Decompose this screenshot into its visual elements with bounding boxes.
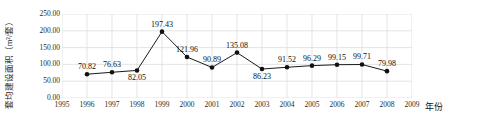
y-tick-label: 200.00 — [16, 27, 60, 35]
x-tick-label: 1998 — [130, 100, 145, 109]
data-point-label: 82.05 — [128, 73, 146, 82]
x-tick-label: 2000 — [180, 100, 195, 109]
y-axis-title-text: 套均建设面积（m²/套） — [2, 17, 14, 110]
data-point-labels: 70.8276.6382.05197.43121.9690.89135.0886… — [62, 14, 412, 98]
x-tick-label: 2009 — [405, 100, 420, 109]
y-tick-label: 50.00 — [16, 77, 60, 85]
y-tick-label: 150.00 — [16, 44, 60, 52]
x-tick-label: 2004 — [280, 100, 295, 109]
x-tick-label: 2002 — [230, 100, 245, 109]
x-tick-label: 1997 — [105, 100, 120, 109]
x-tick-label: 1999 — [155, 100, 170, 109]
data-point-label: 99.71 — [353, 52, 371, 61]
data-point-label: 121.96 — [176, 45, 198, 54]
y-tick-label: 100.00 — [16, 60, 60, 68]
data-point-label: 70.82 — [78, 62, 96, 71]
x-tick-label: 2005 — [305, 100, 320, 109]
data-point-label: 96.29 — [303, 54, 321, 63]
x-axis-title: 年份 — [425, 100, 443, 113]
data-point-label: 76.63 — [103, 60, 121, 69]
data-point-label: 86.23 — [253, 72, 271, 81]
x-tick-label: 2007 — [355, 100, 370, 109]
data-point-label: 79.98 — [378, 59, 396, 68]
x-tick-label: 2001 — [205, 100, 220, 109]
y-tick-label: 250.00 — [16, 10, 60, 18]
x-axis-tick-labels: 1995199619971998199920002001200220032004… — [62, 100, 412, 114]
x-tick-label: 2003 — [255, 100, 270, 109]
data-point-label: 90.89 — [203, 55, 221, 64]
data-point-label: 91.52 — [278, 55, 296, 64]
data-point-label: 135.08 — [226, 41, 248, 50]
y-tick-label: 0.00 — [16, 94, 60, 102]
x-tick-label: 2008 — [380, 100, 395, 109]
line-chart: 套均建设面积（m²/套） 0.0050.00100.00150.00200.00… — [0, 0, 478, 126]
x-tick-label: 1996 — [80, 100, 95, 109]
data-point-label: 99.15 — [328, 53, 346, 62]
data-point-label: 197.43 — [151, 20, 173, 29]
x-tick-label: 2006 — [330, 100, 345, 109]
y-axis-tick-labels: 0.0050.00100.00150.00200.00250.00 — [14, 0, 60, 126]
x-tick-label: 1995 — [55, 100, 70, 109]
